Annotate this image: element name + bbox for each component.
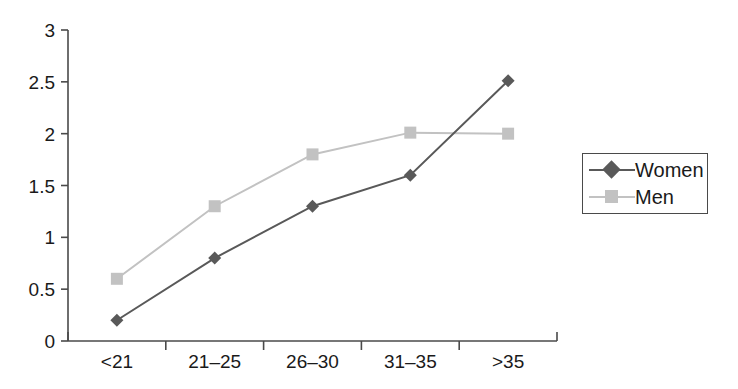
- series-layer: [110, 74, 514, 326]
- data-point-women: [110, 314, 123, 327]
- legend-marker-men-icon: [589, 187, 635, 207]
- y-tick-label: 1: [44, 227, 55, 248]
- y-tick-label: 1.5: [29, 176, 55, 197]
- x-axis: <2121–2526–3031–35>35: [68, 332, 557, 372]
- y-tick-label: 0.5: [29, 279, 55, 300]
- line-chart: 00.511.522.53 <2121–2526–3031–35>35 Wome…: [0, 0, 738, 389]
- data-point-women: [208, 252, 221, 265]
- x-tick-label: <21: [101, 351, 133, 372]
- data-point-men: [111, 273, 123, 285]
- data-point-men: [404, 127, 416, 139]
- legend-item-women: Women: [589, 158, 704, 182]
- x-tick-label: 26–30: [286, 351, 339, 372]
- y-axis: 00.511.522.53: [29, 20, 68, 352]
- y-tick-label: 2: [44, 124, 55, 145]
- y-tick-label: 2.5: [29, 72, 55, 93]
- data-point-women: [306, 200, 319, 213]
- legend: Women Men: [582, 153, 708, 214]
- data-point-men: [209, 200, 221, 212]
- x-tick-label: 31–35: [384, 351, 437, 372]
- data-point-men: [502, 128, 514, 140]
- y-tick-label: 0: [44, 331, 55, 352]
- legend-label-women: Women: [635, 160, 704, 180]
- legend-label-men: Men: [635, 187, 674, 207]
- legend-item-men: Men: [589, 185, 674, 209]
- data-point-men: [307, 148, 319, 160]
- x-tick-label: >35: [492, 351, 524, 372]
- x-tick-label: 21–25: [188, 351, 241, 372]
- y-tick-label: 3: [44, 20, 55, 41]
- legend-marker-women-icon: [589, 160, 635, 180]
